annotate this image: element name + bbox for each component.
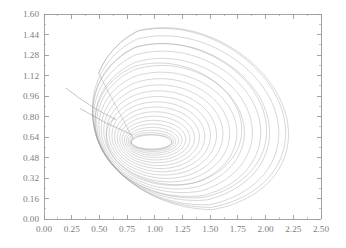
- plot-canvas: 0.000.250.500.751.001.251.501.752.002.25…: [0, 0, 346, 248]
- x-tick-label: 1.50: [202, 224, 218, 234]
- y-tick-label: 0.48: [23, 153, 39, 163]
- x-tick-label: 0.00: [36, 224, 52, 234]
- y-tick-label: 1.44: [23, 30, 39, 40]
- y-tick-label: 0.16: [23, 194, 39, 204]
- x-tick-label: 1.00: [147, 224, 163, 234]
- minor-ticks-group: [44, 14, 321, 219]
- y-tick-label: 1.60: [23, 9, 39, 19]
- y-tick-label: 0.96: [23, 91, 39, 101]
- x-tick-label: 0.75: [119, 224, 135, 234]
- axes-group: [44, 14, 321, 219]
- x-tick-label: 1.75: [230, 224, 246, 234]
- x-tick-label: 0.50: [91, 224, 107, 234]
- trajectory-group: [66, 28, 288, 210]
- x-tick-label: 0.25: [64, 224, 80, 234]
- x-tick-label: 2.00: [258, 224, 274, 234]
- y-tick-label: 0.80: [23, 112, 39, 122]
- y-tick-label: 1.28: [23, 50, 39, 60]
- y-tick-label: 0.32: [23, 173, 39, 183]
- x-tick-label: 1.25: [174, 224, 190, 234]
- y-tick-label: 0.64: [23, 132, 39, 142]
- major-ticks-group: [44, 14, 321, 219]
- y-tick-label: 0.00: [23, 214, 39, 224]
- trajectory-path: [92, 28, 288, 210]
- y-tick-label: 1.12: [23, 71, 39, 81]
- attractor-core-path: [132, 135, 172, 149]
- axis-frame: [44, 14, 321, 219]
- tick-labels-group: 0.000.250.500.751.001.251.501.752.002.25…: [23, 9, 330, 234]
- x-tick-label: 2.25: [285, 224, 301, 234]
- phase-portrait-figure: 0.000.250.500.751.001.251.501.752.002.25…: [0, 0, 346, 248]
- x-tick-label: 2.50: [313, 224, 329, 234]
